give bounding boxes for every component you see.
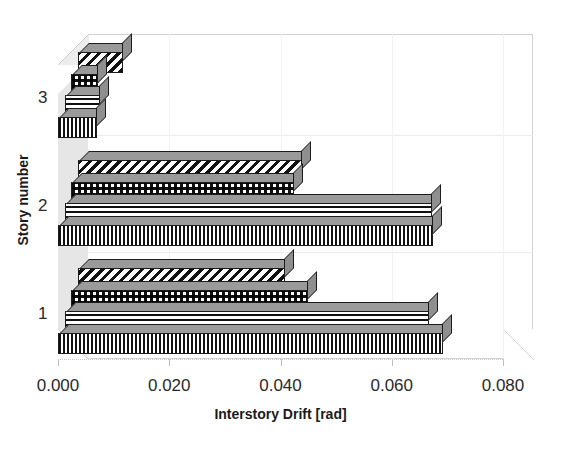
bar-story-3-series-4 <box>58 117 97 138</box>
bar-top-face <box>79 151 311 161</box>
y-tick-label-1: 1 <box>38 304 47 324</box>
x-tick-label: 0.040 <box>259 376 302 396</box>
y-axis-title: Story number <box>15 115 31 285</box>
x-gridline <box>503 34 504 359</box>
x-axis-title: Interstory Drift [rad] <box>0 406 561 422</box>
plot-corner-bottom-right <box>503 329 534 360</box>
category-gridline <box>88 252 533 253</box>
x-tick-label: 0.020 <box>148 376 191 396</box>
bar-story-1-series-4 <box>58 333 443 354</box>
bar-top-face <box>72 173 303 183</box>
x-tick-mark <box>169 359 170 366</box>
x-tick-label: 0.000 <box>37 376 80 396</box>
x-tick-mark <box>392 359 393 366</box>
y-tick-label-3: 3 <box>38 88 47 108</box>
x-tick-mark <box>281 359 282 366</box>
x-tick-label: 0.080 <box>482 376 525 396</box>
bar-story-2-series-4 <box>58 225 433 246</box>
bar-top-face <box>59 216 442 226</box>
bar-top-face <box>59 324 452 334</box>
x-tick-label: 0.060 <box>370 376 413 396</box>
bar-top-face <box>79 259 294 269</box>
x-tick-mark <box>503 359 504 366</box>
bar-top-face <box>66 302 438 312</box>
bar-top-face <box>72 281 317 291</box>
bar-top-face <box>66 194 441 204</box>
y-tick-label-2: 2 <box>38 196 47 216</box>
chart-root: 0.0000.0200.0400.0600.080 123 Interstory… <box>0 0 561 455</box>
x-tick-mark <box>58 359 59 366</box>
category-gridline <box>88 135 533 136</box>
